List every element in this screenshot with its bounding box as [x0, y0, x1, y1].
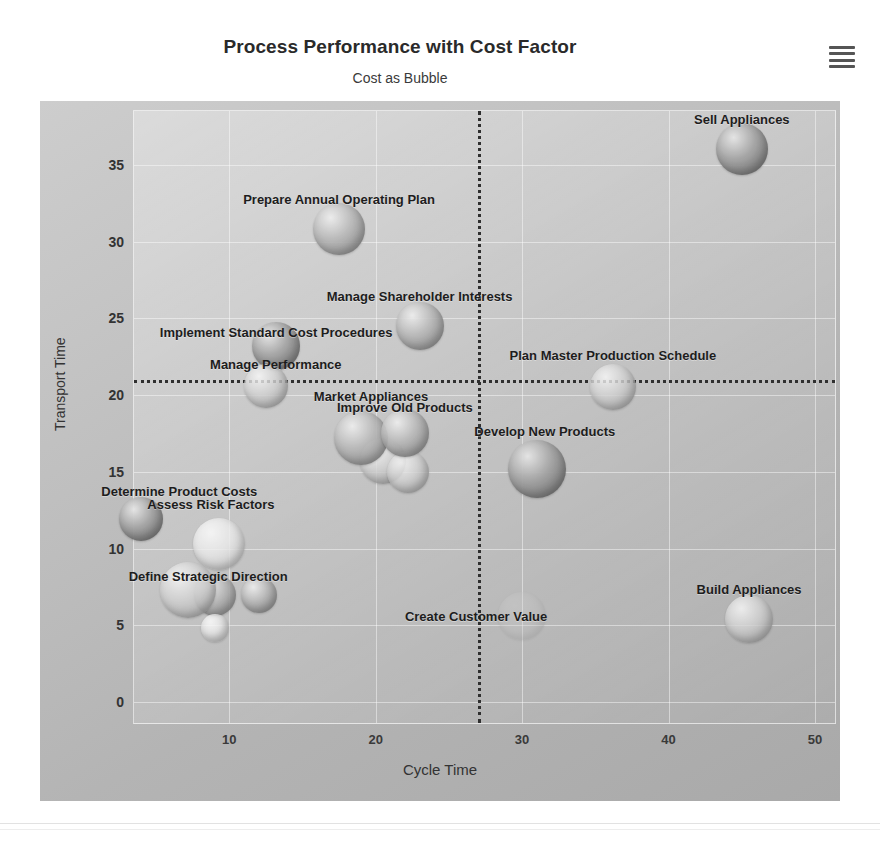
x-tick-label: 40	[661, 732, 675, 747]
hamburger-menu-icon[interactable]	[829, 44, 855, 70]
x-axis-label: Cycle Time	[40, 761, 840, 778]
y-tick-label: 20	[108, 387, 124, 403]
bubble-label: Market Appliances	[314, 389, 428, 404]
bubble[interactable]	[716, 123, 768, 175]
gridline	[134, 318, 835, 319]
footer-divider-secondary	[0, 829, 880, 830]
plot-panel: Transport Time Cycle Time 05101520253035…	[40, 101, 840, 801]
chart-card: Process Performance with Cost Factor Cos…	[0, 0, 880, 806]
gridline	[134, 242, 835, 243]
chart-title: Process Performance with Cost Factor	[0, 36, 800, 58]
y-tick-label: 5	[116, 617, 124, 633]
footer-divider	[0, 823, 880, 824]
bubble-label: Develop New Products	[474, 423, 615, 438]
chart-header: Process Performance with Cost Factor Cos…	[0, 0, 880, 100]
x-tick-label: 30	[515, 732, 529, 747]
y-tick-label: 10	[108, 541, 124, 557]
bubble[interactable]	[334, 411, 388, 465]
bubble[interactable]	[160, 562, 216, 618]
gridline	[134, 702, 835, 703]
chart-subtitle: Cost as Bubble	[0, 70, 800, 86]
y-tick-label: 15	[108, 464, 124, 480]
x-tick-label: 20	[368, 732, 382, 747]
bubble[interactable]	[590, 364, 636, 410]
bubble-label: Assess Risk Factors	[147, 496, 274, 511]
gridline	[669, 111, 670, 723]
plot-area: 05101520253035 1020304050 Sell Appliance…	[133, 110, 836, 724]
bubble[interactable]	[396, 302, 444, 350]
reference-line	[478, 111, 481, 723]
y-tick-label: 25	[108, 310, 124, 326]
gridline	[134, 472, 835, 473]
reference-line	[134, 380, 835, 383]
bubble[interactable]	[244, 364, 288, 408]
bubble-label: Determine Product Costs	[101, 484, 257, 499]
gridline	[134, 395, 835, 396]
gridline	[815, 111, 816, 723]
bubble[interactable]	[252, 322, 300, 370]
x-tick-label: 50	[808, 732, 822, 747]
bubble[interactable]	[508, 440, 566, 498]
y-tick-label: 0	[116, 694, 124, 710]
bubble[interactable]	[119, 497, 163, 541]
bubble[interactable]	[381, 409, 429, 457]
y-axis-label: Transport Time	[52, 337, 68, 431]
gridline	[229, 111, 230, 723]
y-tick-label: 35	[108, 157, 124, 173]
bubble[interactable]	[201, 614, 229, 642]
bubble[interactable]	[498, 592, 546, 640]
bubble[interactable]	[313, 203, 365, 255]
bubble-label: Plan Master Production Schedule	[510, 348, 717, 363]
y-tick-label: 30	[108, 234, 124, 250]
bubble[interactable]	[193, 518, 245, 570]
x-tick-label: 10	[222, 732, 236, 747]
bubble[interactable]	[241, 577, 277, 613]
bubble[interactable]	[725, 595, 773, 643]
